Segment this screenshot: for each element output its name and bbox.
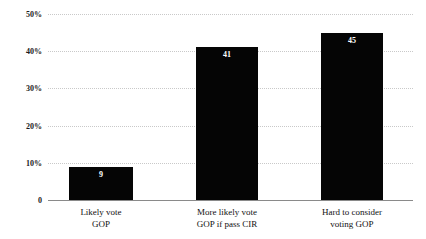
category-label-3-line-1: Hard to consider <box>282 207 422 219</box>
bar-chart: 50% 40% 30% 20% 10% 0 9 41 45 Likely vot… <box>0 0 426 239</box>
x-axis-category-label-3: Hard to consider voting GOP <box>282 207 422 230</box>
y-axis-tick-label-0: 0 <box>0 196 42 205</box>
x-axis-baseline <box>48 200 413 201</box>
category-label-2-line-2: GOP if pass CIR <box>157 219 297 231</box>
bar-value-label-2: 41 <box>196 50 258 60</box>
bar-likely-vote-gop: 9 <box>69 167 133 200</box>
category-label-2-line-1: More likely vote <box>157 207 297 219</box>
category-label-3-line-2: voting GOP <box>282 219 422 231</box>
bar-value-label-3: 45 <box>321 36 383 46</box>
x-axis-category-label-2: More likely vote GOP if pass CIR <box>157 207 297 230</box>
gridline-50 <box>48 14 413 15</box>
y-axis-tick-label-20: 20% <box>0 121 42 130</box>
y-axis-tick-label-10: 10% <box>0 158 42 167</box>
y-axis-tick-label-30: 30% <box>0 84 42 93</box>
bar-more-likely-vote-gop-if-pass-cir: 41 <box>196 47 258 200</box>
category-label-1-line-1: Likely vote <box>31 207 171 219</box>
x-axis-category-label-1: Likely vote GOP <box>31 207 171 230</box>
y-axis-tick-label-40: 40% <box>0 47 42 56</box>
y-axis-tick-label-50: 50% <box>0 10 42 19</box>
bar-value-label-1: 9 <box>69 170 133 180</box>
plot-area: 9 41 45 <box>48 14 413 200</box>
bar-hard-to-consider-voting-gop: 45 <box>321 33 383 200</box>
category-label-1-line-2: GOP <box>31 219 171 231</box>
